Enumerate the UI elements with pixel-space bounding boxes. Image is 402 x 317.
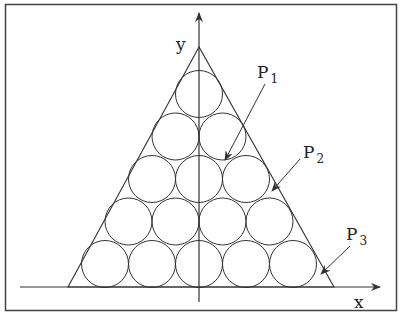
triangle-circle-packing-diagram: x y P1 P2 P3 xyxy=(0,0,402,317)
p3-arrow xyxy=(321,246,350,274)
x-axis-label: x xyxy=(354,292,364,312)
p2-arrow xyxy=(272,159,300,191)
p1-arrow xyxy=(225,84,265,160)
triangle xyxy=(68,47,334,287)
y-axis-label: y xyxy=(175,34,186,54)
p3-label: P3 xyxy=(346,224,367,248)
p2-label: P2 xyxy=(303,142,324,166)
p1-label: P1 xyxy=(257,62,278,86)
